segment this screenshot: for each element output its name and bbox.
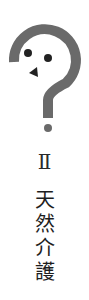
vertical-title: 天 然 介 護 xyxy=(0,188,89,284)
title-char: 介 xyxy=(0,236,89,260)
question-dot xyxy=(44,124,52,132)
beak-icon xyxy=(29,67,38,77)
right-eye-icon xyxy=(44,54,52,62)
title-char: 護 xyxy=(0,260,89,284)
volume-numeral: Ⅱ xyxy=(0,150,89,174)
question-mark-face-icon xyxy=(0,0,89,140)
title-char: 天 xyxy=(0,188,89,212)
left-eye-icon xyxy=(24,49,32,57)
title-char: 然 xyxy=(0,212,89,236)
